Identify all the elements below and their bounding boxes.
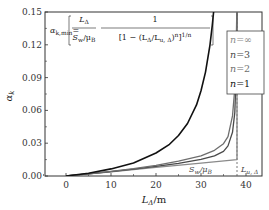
y-tick-label: 0.15 <box>22 7 42 17</box>
legend-entry-0: n=∞ <box>230 34 252 45</box>
plot-area: 0.000.030.060.090.120.15010203040LΔ/mαkα… <box>0 0 269 210</box>
annotation-lu: Lu, Δ <box>240 165 258 175</box>
legend-entry-3: n=1 <box>230 78 250 89</box>
x-tick-label: 20 <box>150 180 162 190</box>
formula-num1: LΔ <box>78 15 89 25</box>
x-tick-label: 0 <box>63 180 69 190</box>
formula-den2: [1 − (LΔ/Lu, Δ)n]1/n <box>119 31 192 43</box>
x-axis-label: LΔ/m <box>141 194 167 207</box>
y-tick-label: 0.12 <box>22 40 42 50</box>
annotation-sw-mub: Sw/μB <box>189 165 213 175</box>
y-tick-label: 0.03 <box>22 138 42 148</box>
chart: 0.000.030.060.090.120.15010203040LΔ/mαkα… <box>0 0 269 210</box>
formula-num2: 1 <box>152 15 157 24</box>
y-tick-label: 0.00 <box>22 171 42 181</box>
legend-entry-1: n=3 <box>230 49 250 60</box>
y-tick-label: 0.06 <box>22 105 42 115</box>
x-tick-label: 40 <box>240 180 252 190</box>
y-axis-label: αk <box>3 90 16 101</box>
x-tick-label: 10 <box>105 180 117 190</box>
x-tick-label: 30 <box>195 180 207 190</box>
formula-den1: Sw/μB <box>73 33 97 43</box>
legend-entry-2: n=2 <box>230 63 250 74</box>
y-tick-label: 0.09 <box>22 73 42 83</box>
